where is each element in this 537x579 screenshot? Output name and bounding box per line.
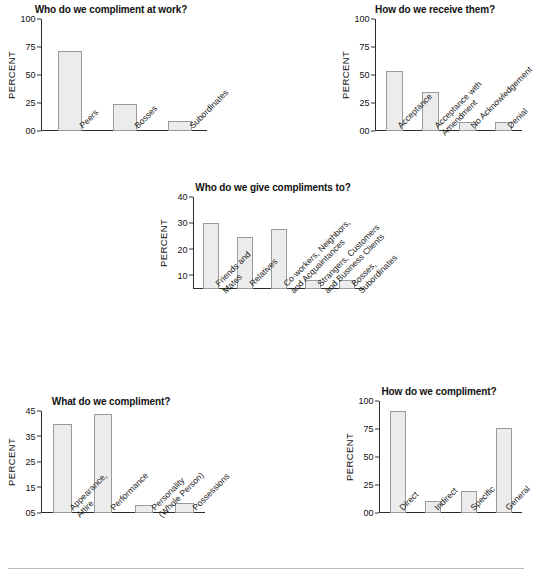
y-axis-ticks: 00255075100 (355, 401, 379, 513)
y-tick-50: 50 (25, 71, 41, 80)
y-axis-ticks: 0515253545 (17, 411, 41, 513)
y-tick-20: 20 (177, 245, 193, 254)
y-tick-100: 100 (358, 397, 379, 406)
y-tick-25: 25 (363, 481, 379, 490)
y-tick-100: 100 (20, 15, 41, 24)
x-axis-labels: PeersBossesSubordinates (54, 124, 234, 182)
x-axis-labels: AcceptanceAcceptance with AmendmentNo Ac… (382, 124, 537, 182)
y-tick-40: 40 (177, 193, 193, 202)
chart-how-do-we-receive-them: How do we receive them? PERCENT 00255075… (340, 4, 530, 131)
y-tick-100: 100 (354, 15, 375, 24)
y-tick-25: 25 (25, 99, 41, 108)
y-tick-05: 05 (25, 509, 41, 518)
chart-who-do-we-compliment-at-work: Who do we compliment at work? PERCENT 00… (6, 4, 216, 131)
y-tick-15: 15 (25, 483, 41, 492)
y-axis-label: PERCENT (158, 197, 169, 289)
y-tick-75: 75 (359, 43, 375, 52)
y-axis-label: PERCENT (6, 19, 17, 131)
y-axis-label: PERCENT (340, 19, 351, 131)
y-tick-75: 75 (25, 43, 41, 52)
bar (53, 424, 72, 513)
y-tick-25: 25 (25, 458, 41, 467)
bar (58, 51, 82, 131)
chart-how-do-we-compliment: How do we compliment? PERCENT 0025507510… (344, 386, 534, 513)
y-axis-ticks: 10203040 (169, 197, 193, 289)
chart-what-do-we-compliment: What do we compliment? PERCENT 051525354… (6, 396, 216, 513)
y-tick-10: 10 (177, 271, 193, 280)
y-tick-00: 00 (363, 509, 379, 518)
y-tick-30: 30 (177, 219, 193, 228)
y-axis-ticks: 00255075100 (17, 19, 41, 131)
chart-who-do-we-give-compliments-to: Who do we give compliments to? PERCENT 1… (158, 182, 388, 289)
y-tick-35: 35 (25, 432, 41, 441)
y-tick-75: 75 (363, 425, 379, 434)
y-tick-00: 00 (25, 127, 41, 136)
y-axis-label: PERCENT (6, 411, 17, 513)
y-tick-45: 45 (25, 407, 41, 416)
chart-title: Who do we give compliments to? (158, 182, 388, 193)
y-tick-00: 00 (359, 127, 375, 136)
y-tick-50: 50 (359, 71, 375, 80)
y-tick-50: 50 (363, 453, 379, 462)
chart-title: What do we compliment? (6, 396, 216, 407)
chart-title: Who do we compliment at work? (6, 4, 216, 15)
x-axis-labels: Friends and MatesRelativesCo-workers, Ne… (201, 282, 401, 350)
y-axis-ticks: 00255075100 (351, 19, 375, 131)
bar-series (42, 19, 206, 131)
x-axis-labels: Appearance, AttirePerformancePersonality… (52, 506, 242, 566)
y-axis-label: PERCENT (344, 401, 355, 513)
y-tick-25: 25 (359, 99, 375, 108)
x-axis-labels: DirectIndirectSpecificGeneral (384, 506, 537, 562)
plot-area (41, 19, 206, 131)
bottom-divider (8, 568, 524, 569)
